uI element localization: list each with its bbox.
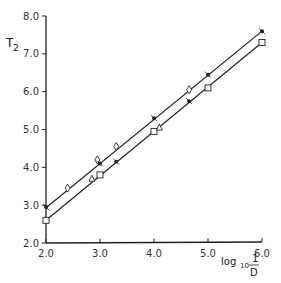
y-title-sub: 2 bbox=[13, 43, 19, 53]
fit-lines bbox=[46, 31, 262, 220]
y-tick-label: 5.0 bbox=[23, 124, 39, 135]
x-axis-title: log 10 1 D bbox=[221, 253, 259, 278]
marker-triangle bbox=[89, 175, 95, 181]
x-title-den: D bbox=[250, 267, 258, 278]
x-tick-label: 5.0 bbox=[200, 248, 216, 259]
y-tick-label: 6.0 bbox=[23, 86, 39, 97]
y-tick-label: 2.0 bbox=[23, 238, 39, 249]
x-tick-label: 2.0 bbox=[38, 248, 54, 259]
y-tick-label: 8.0 bbox=[23, 11, 39, 22]
x-title-base: 10 bbox=[240, 262, 249, 270]
y-axis-title: T 2 bbox=[5, 36, 19, 53]
marker-square bbox=[43, 217, 49, 223]
marker-square bbox=[205, 85, 211, 91]
marker-square bbox=[97, 172, 103, 178]
y-tick-label: 3.0 bbox=[23, 200, 39, 211]
y-tick-label: 7.0 bbox=[23, 48, 39, 59]
marker-square bbox=[151, 128, 157, 134]
axes: 2.03.04.05.06.07.08.02.03.04.05.06.0 bbox=[23, 11, 270, 260]
y-tick-label: 4.0 bbox=[23, 162, 39, 173]
x-tick-label: 3.0 bbox=[92, 248, 108, 259]
chart: 2.03.04.05.06.07.08.02.03.04.05.06.0 T 2… bbox=[0, 0, 281, 283]
x-title-num: 1 bbox=[252, 253, 258, 264]
marker-square bbox=[259, 39, 265, 45]
data-points bbox=[43, 28, 265, 223]
x-tick-label: 4.0 bbox=[146, 248, 162, 259]
x-title-log: log bbox=[221, 256, 236, 267]
